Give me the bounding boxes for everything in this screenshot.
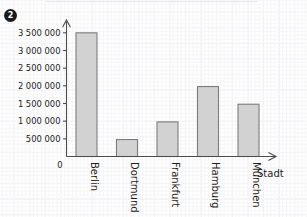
- bar-berlin: [76, 33, 97, 157]
- y-axis-labels-group: 500 0001 000 0001 500 0002 000 0002 500 …: [18, 28, 61, 144]
- category-label-dortmund: Dortmund: [129, 162, 140, 213]
- bar-chart: 0 500 0001 000 0001 500 0002 000 0002 50…: [0, 0, 307, 217]
- y-axis-tick-label: 3 000 000: [18, 46, 61, 56]
- bar-hamburg: [198, 87, 219, 157]
- category-labels-group: BerlinDortmundFrankfurtHamburgMünchen: [89, 162, 262, 213]
- bars-group: [76, 33, 259, 157]
- category-label-berlin: Berlin: [89, 162, 100, 191]
- y-axis-tick-label: 2 500 000: [18, 63, 61, 73]
- origin-label: 0: [57, 160, 62, 170]
- y-axis-tick-label: 1 500 000: [18, 99, 61, 109]
- bar-chart-svg: 0 500 0001 000 0001 500 0002 000 0002 50…: [0, 0, 307, 217]
- worksheet-page: 2 0 500 0001 000 0001 500 0002 000 0002 …: [0, 0, 307, 217]
- category-label-frankfurt: Frankfurt: [170, 162, 181, 207]
- category-label-hamburg: Hamburg: [210, 162, 221, 208]
- bar-dortmund: [117, 140, 138, 157]
- bar-münchen: [238, 104, 259, 156]
- y-axis-tick-label: 500 000: [26, 134, 61, 144]
- bar-frankfurt: [157, 122, 178, 157]
- x-axis-title: Stadt: [257, 168, 284, 179]
- y-axis-tick-label: 3 500 000: [18, 28, 61, 38]
- y-axis-tick-label: 2 000 000: [18, 81, 61, 91]
- y-axis-tick-label: 1 000 000: [18, 116, 61, 126]
